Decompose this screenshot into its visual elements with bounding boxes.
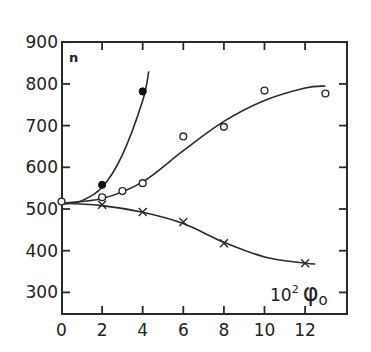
y-axis-label: n xyxy=(69,50,78,65)
y-tick-label: 300 xyxy=(26,282,58,302)
curves xyxy=(62,71,326,264)
y-tick-label: 400 xyxy=(26,241,58,261)
open-circle-marker xyxy=(58,198,65,205)
y-tick-label: 600 xyxy=(26,157,58,177)
x-tick-label: 4 xyxy=(137,320,148,340)
y-tick-label: 800 xyxy=(26,74,58,94)
open-circle-marker xyxy=(99,194,106,201)
open-circle-marker xyxy=(180,133,187,140)
cross-series-curve xyxy=(62,203,316,264)
x-tick-label: 6 xyxy=(178,320,189,340)
open-circle-marker xyxy=(139,180,146,187)
open-circle-marker xyxy=(261,87,268,94)
x-tick-label: 8 xyxy=(218,320,229,340)
data-markers xyxy=(58,87,329,267)
plot-border xyxy=(62,42,347,314)
filled-circle-marker xyxy=(99,181,106,188)
x-tick-label: 2 xyxy=(97,320,108,340)
y-tick-label: 700 xyxy=(26,116,58,136)
y-tick-label: 900 xyxy=(26,32,58,52)
open-circle-marker xyxy=(322,90,329,97)
y-tick-label: 500 xyxy=(26,199,58,219)
x-tick-label: 0 xyxy=(56,320,67,340)
x-tick-label: 10 xyxy=(254,320,276,340)
filled-circle-marker xyxy=(139,88,146,95)
x-axis-label: 102φo xyxy=(270,279,328,309)
open-circle-marker xyxy=(119,188,126,195)
chart: 300400500600700800900 024681012 n 102φo xyxy=(0,0,371,352)
plot-frame xyxy=(62,42,347,314)
open-circle-marker xyxy=(221,123,228,130)
x-tick-label: 12 xyxy=(294,320,316,340)
